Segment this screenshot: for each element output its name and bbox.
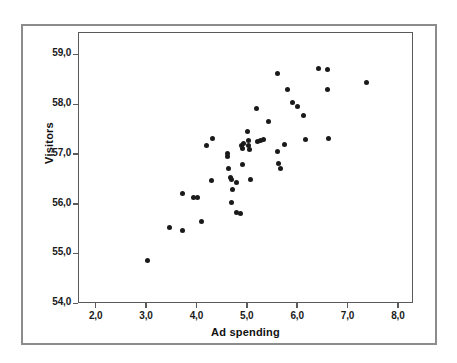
data-point <box>247 147 252 152</box>
y-tick-label: 59,0 <box>52 47 71 58</box>
data-point <box>295 104 300 109</box>
data-point <box>326 136 331 141</box>
x-axis-title: Ad spending <box>78 326 413 338</box>
data-point <box>167 225 172 230</box>
data-point <box>229 200 234 205</box>
data-point <box>180 228 185 233</box>
data-point <box>325 67 330 72</box>
data-point <box>261 137 266 142</box>
data-point <box>210 136 215 141</box>
data-point <box>145 258 150 263</box>
data-point <box>254 106 259 111</box>
data-point <box>364 80 369 85</box>
x-tick-label: 8,0 <box>391 310 404 321</box>
x-tick-mark <box>246 303 248 308</box>
data-point <box>199 219 204 224</box>
figure-root: 54,055,056,057,058,059,0 Visitors 2,03,0… <box>0 0 457 363</box>
y-tick-label: 58,0 <box>52 97 71 108</box>
x-tick-mark <box>196 303 198 308</box>
data-point <box>266 119 271 124</box>
x-tick-label: 5,0 <box>240 310 253 321</box>
x-tick-mark <box>347 303 349 308</box>
data-point <box>275 71 280 76</box>
data-point <box>238 211 243 216</box>
x-tick-mark <box>296 303 298 308</box>
data-point <box>226 166 231 171</box>
data-point <box>276 161 281 166</box>
data-point <box>282 142 287 147</box>
x-tick-label: 4,0 <box>190 310 203 321</box>
data-point <box>209 178 214 183</box>
data-point <box>285 87 290 92</box>
x-tick-label: 7,0 <box>341 310 354 321</box>
y-tick-label: 57,0 <box>52 147 71 158</box>
data-point <box>230 187 235 192</box>
data-point <box>180 191 185 196</box>
data-point <box>240 162 245 167</box>
x-tick-label: 6,0 <box>290 310 303 321</box>
data-point <box>240 146 245 151</box>
scatter-plot-area <box>79 33 412 302</box>
y-axis-title: Visitors <box>43 122 55 164</box>
data-point <box>248 177 253 182</box>
data-point <box>245 129 250 134</box>
x-tick-mark <box>397 303 399 308</box>
data-point <box>303 137 308 142</box>
x-tick-label: 2,0 <box>89 310 102 321</box>
data-point <box>278 166 283 171</box>
data-point <box>234 180 239 185</box>
data-point <box>204 143 209 148</box>
data-point <box>290 100 295 105</box>
data-point <box>325 87 330 92</box>
caption-strip <box>24 350 424 363</box>
x-tick-mark <box>95 303 97 308</box>
plot-frame <box>78 32 413 303</box>
data-point <box>275 149 280 154</box>
x-tick-mark <box>145 303 147 308</box>
data-point <box>225 154 230 159</box>
y-tick-label: 55,0 <box>52 246 71 257</box>
data-point <box>195 195 200 200</box>
data-point <box>316 66 321 71</box>
data-point <box>301 113 306 118</box>
y-tick-label: 56,0 <box>52 197 71 208</box>
x-tick-label: 3,0 <box>139 310 152 321</box>
